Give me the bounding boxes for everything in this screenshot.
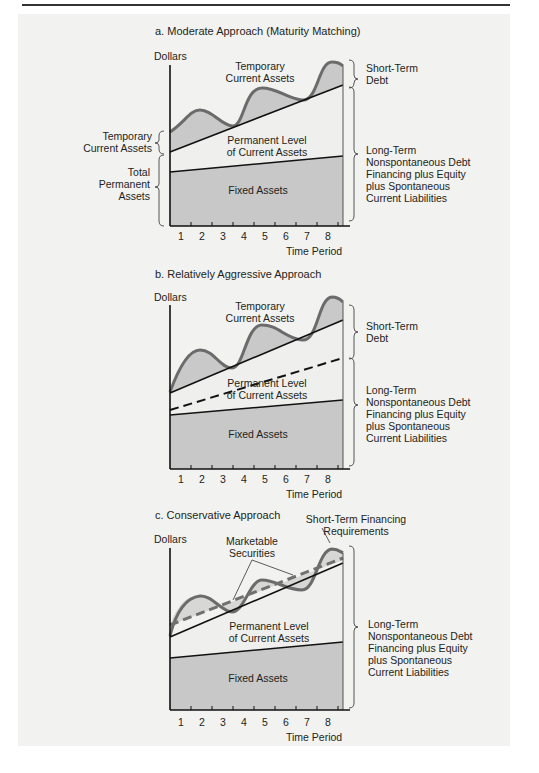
panel-b-y-axis-label: Dollars	[154, 291, 187, 303]
panel-c-long-term-label: Long-Term Nonspontaneous Debt Financing …	[368, 618, 473, 678]
panel-a-title: a. Moderate Approach (Maturity Matching)	[155, 25, 360, 37]
panel-b-temporary-label: Temporary Current Assets	[222, 300, 298, 324]
panel-b-x-axis-label: Time Period	[286, 488, 342, 500]
panel-b-permanent-label: Permanent Level of Current Assets	[222, 377, 312, 401]
panel-b-long-term-label: Long-Term Nonspontaneous Debt Financing …	[366, 384, 471, 444]
panel-a-fixed-label: Fixed Assets	[222, 184, 294, 196]
panel-a-left-temporary-label: Temporary Current Assets	[70, 130, 152, 154]
panel-c-marketable-securities-label: Marketable Securities	[220, 535, 284, 559]
panel-a-permanent-label: Permanent Level of Current Assets	[222, 134, 312, 158]
panel-a-temporary-label: Temporary Current Assets	[222, 60, 298, 84]
panel-c-permanent-label: Permanent Level of Current Assets	[224, 620, 314, 644]
panel-a-long-term-label: Long-Term Nonspontaneous Debt Financing …	[366, 144, 471, 204]
panel-a-short-term-label: Short-Term Debt	[366, 62, 418, 86]
panel-b-title: b. Relatively Aggressive Approach	[155, 268, 321, 280]
panel-c-title: c. Conservative Approach	[155, 509, 280, 521]
panel-a-left-total-permanent-label: Total Permanent Assets	[70, 166, 150, 202]
panel-a-x-axis-label: Time Period	[286, 245, 342, 257]
panel-c-short-term-financing-label: Short-Term Financing Requirements	[304, 513, 408, 537]
panel-a-y-axis-label: Dollars	[154, 50, 187, 62]
panel-c-fixed-label: Fixed Assets	[222, 672, 294, 684]
panel-b-fixed-label: Fixed Assets	[222, 428, 294, 440]
panel-b-short-term-label: Short-Term Debt	[366, 320, 418, 344]
panel-c-y-axis-label: Dollars	[154, 533, 187, 545]
panel-c-x-axis-label: Time Period	[286, 731, 342, 743]
